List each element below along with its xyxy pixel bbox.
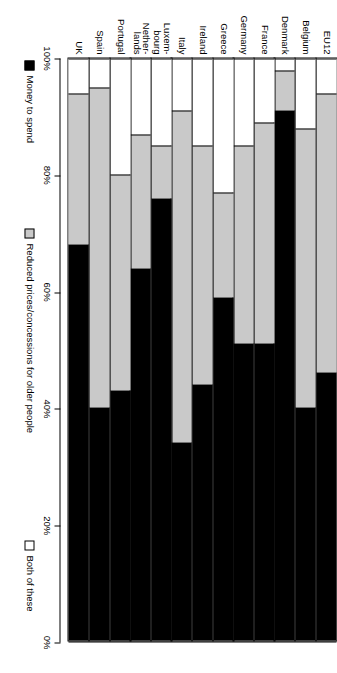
legend-label: Reduced prices/concessions for older peo… — [24, 243, 34, 433]
bar-segment-money — [110, 390, 130, 640]
category-label: Belgium — [301, 0, 311, 54]
bar-segment-reduced — [213, 192, 233, 297]
category-axis: EU12BelgiumDenmarkFranceGermanyGreeceIre… — [68, 0, 336, 58]
bar-segment-money — [295, 407, 315, 640]
axis-tick — [54, 525, 60, 526]
bar-segment-reduced — [110, 174, 130, 389]
axis-tick — [54, 58, 60, 59]
stacked-bar — [129, 57, 151, 641]
category-label: France — [259, 0, 269, 54]
axis-tick-label: 100% — [41, 46, 51, 70]
chart-legend: Money to spendReduced prices/concessions… — [0, 0, 36, 673]
bar-segment-reduced — [89, 87, 109, 407]
bar-segment-reduced — [68, 93, 88, 244]
stacked-bar — [294, 57, 316, 641]
bar-segment-both — [89, 58, 109, 87]
stacked-bar — [170, 57, 192, 641]
category-label: Ireland — [198, 0, 208, 54]
category-label: Portugal — [115, 0, 125, 54]
axis-tick — [54, 408, 60, 409]
stacked-bar — [212, 57, 234, 641]
bar-row — [273, 58, 295, 641]
bar-segment-money — [233, 343, 253, 640]
stacked-bar — [88, 57, 110, 641]
category-label: EU12 — [321, 0, 331, 54]
bar-row — [232, 58, 254, 641]
bar-segment-both — [192, 58, 212, 145]
bar-segment-reduced — [274, 70, 294, 111]
category-label: UK — [74, 0, 84, 54]
bar-row — [294, 58, 316, 641]
bar-row — [170, 58, 192, 641]
category-label: Greece — [218, 0, 228, 54]
bar-segment-money — [151, 198, 171, 640]
category-label: Denmark — [280, 0, 290, 54]
bar-segment-reduced — [192, 145, 212, 384]
bar-segment-money — [89, 407, 109, 640]
bar-segment-reduced — [151, 145, 171, 197]
bar-segment-both — [171, 58, 191, 110]
bar-segment-both — [213, 58, 233, 192]
bar-segment-reduced — [130, 134, 150, 268]
bar-segment-money — [213, 297, 233, 640]
stacked-bar — [191, 57, 213, 641]
bar-segment-money — [254, 343, 274, 640]
bar-segment-both — [254, 58, 274, 122]
stacked-bar — [253, 57, 275, 641]
category-label: Italy — [177, 0, 187, 54]
axis-tick — [54, 175, 60, 176]
category-label: Spain — [94, 0, 104, 54]
bar-row — [88, 58, 110, 641]
stacked-bar — [232, 57, 254, 641]
bar-row — [315, 58, 337, 641]
bars-panel — [68, 58, 336, 642]
axis-tick — [54, 642, 60, 643]
bar-row — [109, 58, 131, 641]
legend-item: Both of these — [24, 540, 34, 611]
axis-tick-label: 60% — [41, 282, 51, 301]
bar-segment-both — [233, 58, 253, 145]
category-label: Luxem- bourg — [152, 0, 171, 54]
axis-tick — [54, 292, 60, 293]
axis-tick-label: 20% — [41, 516, 51, 535]
bar-row — [129, 58, 151, 641]
stacked-bar — [67, 57, 89, 641]
bar-segment-reduced — [171, 110, 191, 442]
bar-segment-both — [68, 58, 88, 93]
legend-item: Reduced prices/concessions for older peo… — [24, 228, 34, 433]
stacked-bar — [109, 57, 131, 641]
bar-segment-both — [316, 58, 336, 93]
bar-segment-money — [192, 384, 212, 640]
bar-segment-both — [295, 58, 315, 128]
bar-segment-money — [274, 110, 294, 640]
legend-label: Money to spend — [24, 75, 34, 143]
bar-segment-reduced — [254, 122, 274, 343]
bar-segment-reduced — [295, 128, 315, 407]
bar-segment-money — [68, 244, 88, 640]
stacked-bar — [315, 57, 337, 641]
bar-segment-reduced — [233, 145, 253, 343]
bar-segment-both — [110, 58, 130, 174]
bar-row — [150, 58, 172, 641]
axis-tick-label: 80% — [41, 165, 51, 184]
category-label: Germany — [239, 0, 249, 54]
bar-segment-both — [274, 58, 294, 70]
legend-swatch-both — [24, 540, 34, 550]
legend-swatch-reduced — [24, 228, 34, 238]
bar-segment-money — [316, 372, 336, 640]
bar-segment-reduced — [316, 93, 336, 372]
stacked-bar — [150, 57, 172, 641]
category-label: Nether- lands — [131, 0, 150, 54]
legend-swatch-money — [24, 60, 34, 70]
bar-segment-money — [130, 268, 150, 640]
axis-tick-label: 0% — [41, 635, 51, 649]
bar-row — [212, 58, 234, 641]
axis-tick-label: 40% — [41, 399, 51, 418]
bar-segment-both — [151, 58, 171, 145]
bar-row — [191, 58, 213, 641]
stacked-bar — [273, 57, 295, 641]
legend-label: Both of these — [24, 555, 34, 611]
value-axis-line — [59, 58, 60, 642]
